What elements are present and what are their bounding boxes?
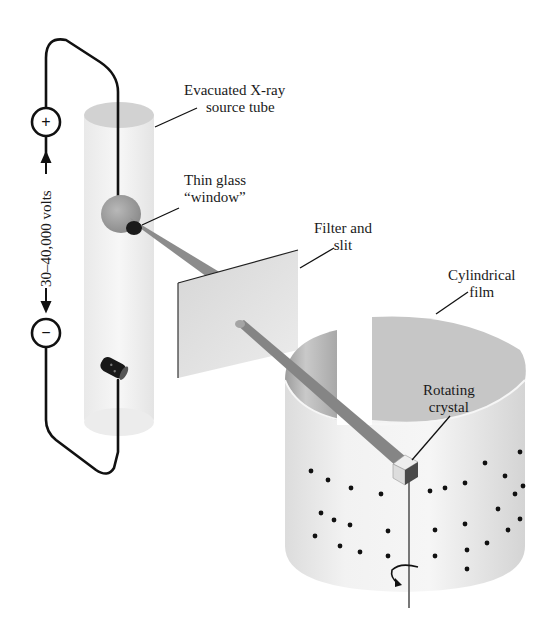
thin-glass-window bbox=[126, 221, 142, 235]
voltage-label: 30–40,000 volts bbox=[38, 190, 55, 287]
xray-diffraction-diagram: + − 30–40,000 volts Evacuated X-ray sour… bbox=[0, 0, 558, 635]
positive-terminal-sign: + bbox=[34, 114, 58, 130]
label-rotating-crystal: Rotating crystal bbox=[423, 382, 475, 416]
label-source-tube: Evacuated X-ray source tube bbox=[184, 82, 285, 116]
negative-terminal-sign: − bbox=[34, 325, 58, 341]
label-filter-and-slit: Filter and slit bbox=[314, 220, 372, 254]
label-cylindrical-film: Cylindrical film bbox=[448, 267, 516, 301]
cylindrical-film bbox=[285, 310, 526, 592]
label-thin-glass-window: Thin glass “window” bbox=[184, 172, 246, 206]
